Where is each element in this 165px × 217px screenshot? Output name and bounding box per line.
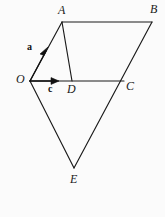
vector-label-a: a [27,42,32,52]
point-label-B: B [150,3,157,15]
point-label-D: D [67,83,76,95]
vector-c-group [30,78,59,85]
point-label-C: C [126,80,134,92]
point-label-A: A [58,4,65,16]
geometry-drawing [0,0,165,217]
vector-a-group [30,47,48,81]
segment-BE [74,22,152,168]
point-label-E: E [70,173,77,185]
vector-a-arrowhead [40,47,48,56]
segment-AD [62,22,72,81]
vector-label-c: c [48,84,52,94]
figure-canvas: A B C D E O a c [0,0,165,217]
point-label-O: O [16,73,25,85]
